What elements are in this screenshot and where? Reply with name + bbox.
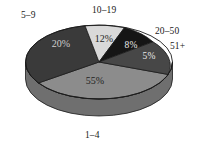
- pie-data-label-5-9: 20%: [52, 38, 71, 49]
- pie-category-label-20-50: 20–50: [155, 27, 179, 37]
- pie-data-label-1-4: 55%: [86, 75, 105, 86]
- pie-category-label-51-plus: 51+: [170, 42, 185, 52]
- pie-category-label-1-4: 1–4: [85, 131, 100, 141]
- pie-data-label-10-19: 12%: [95, 33, 114, 44]
- pie-chart-figure: 12% 8% 5% 20% 55% 5–9 10–19 20–50 51+ 1–…: [0, 0, 203, 147]
- pie-data-label-51-plus: 5%: [143, 51, 156, 61]
- pie-chart-graphic: 12% 8% 5% 20% 55%: [0, 0, 203, 147]
- pie-data-label-20-50: 8%: [125, 40, 138, 50]
- pie-category-label-5-9: 5–9: [21, 11, 36, 21]
- pie-category-label-10-19: 10–19: [92, 6, 116, 16]
